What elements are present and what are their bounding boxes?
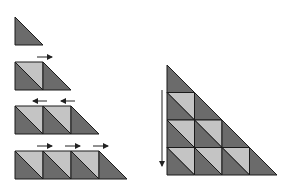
end-triangle: [99, 151, 127, 179]
end-triangle: [43, 62, 71, 90]
sequence-row-1: [15, 17, 43, 45]
end-triangle: [71, 106, 99, 134]
split-square: [15, 106, 43, 134]
triangle-construction-diagram: [0, 0, 287, 191]
split-square: [15, 151, 43, 179]
split-square: [167, 93, 195, 121]
split-square: [43, 106, 71, 134]
split-square: [43, 151, 71, 179]
sequence-row-4: [15, 146, 127, 179]
split-square: [15, 62, 43, 90]
split-square: [222, 148, 250, 176]
split-square: [195, 120, 223, 148]
end-triangle: [167, 65, 195, 93]
sequence-row-2: [15, 57, 71, 90]
split-square: [167, 120, 195, 148]
split-square: [195, 148, 223, 176]
split-square: [167, 148, 195, 176]
right-assembled-triangle: [162, 65, 277, 175]
end-triangle: [222, 120, 250, 148]
split-square: [71, 151, 99, 179]
end-triangle: [195, 93, 223, 121]
end-triangle: [250, 148, 278, 176]
left-sequence: [15, 17, 127, 179]
sequence-row-3: [15, 101, 99, 134]
end-triangle: [15, 17, 43, 45]
